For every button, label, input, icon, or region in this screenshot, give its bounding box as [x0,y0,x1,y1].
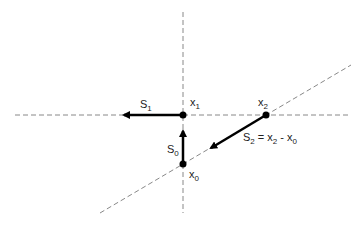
point-x2 [263,112,270,119]
point-x1 [180,112,187,119]
label-s0: S0 [167,143,179,158]
label-x1: x1 [190,96,201,111]
label-x0: x0 [189,168,200,183]
point-x0 [180,161,187,168]
label-x2: x2 [258,96,269,111]
label-s2-equation: S2 = x2 - x0 [243,131,298,146]
diagram-canvas: x1 x2 x0 S1 S0 S2 = x2 - x0 [0,0,364,227]
label-s1: S1 [140,98,152,113]
